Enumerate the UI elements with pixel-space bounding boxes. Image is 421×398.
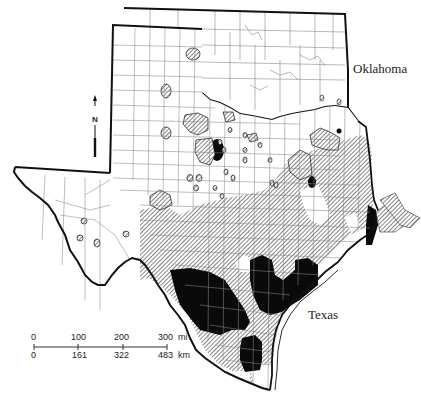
oklahoma-label: Oklahoma bbox=[353, 61, 407, 76]
north-arrow-icon: N bbox=[92, 95, 98, 157]
oklahoma-patch bbox=[320, 95, 324, 101]
north-arrow-letter: N bbox=[92, 115, 98, 124]
scale-km-tick-161: 161 bbox=[72, 350, 87, 360]
solid-region-dot bbox=[337, 129, 342, 134]
solid-region-east-texas-strip bbox=[366, 205, 378, 245]
scale-mi-tick-0: 0 bbox=[31, 332, 36, 342]
scale-mi-tick-200: 200 bbox=[114, 332, 129, 342]
scale-km-tick-0: 0 bbox=[31, 350, 36, 360]
scale-km-tick-483: 483 bbox=[158, 350, 173, 360]
oklahoma-patch bbox=[337, 99, 341, 105]
scale-km-unit: km bbox=[178, 350, 190, 360]
solid-region-coastal-bend bbox=[240, 335, 262, 372]
texas-oklahoma-map: Oklahoma Texas N 0 100 200 300 mi 0 161 … bbox=[0, 0, 421, 398]
texas-label: Texas bbox=[308, 307, 338, 322]
scale-mi-tick-100: 100 bbox=[71, 332, 86, 342]
scale-mi-unit: mi bbox=[178, 332, 188, 342]
scale-bar: 0 100 200 300 mi 0 161 322 483 km bbox=[31, 332, 190, 360]
scale-mi-tick-300: 300 bbox=[158, 332, 173, 342]
scale-km-tick-322: 322 bbox=[114, 350, 129, 360]
solid-region-northeast bbox=[308, 176, 316, 188]
